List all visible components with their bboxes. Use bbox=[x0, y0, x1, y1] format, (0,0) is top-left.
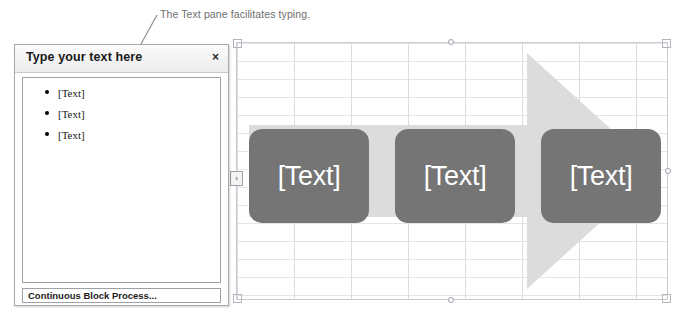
smartart-canvas[interactable]: [Text] [Text] [Text] › bbox=[236, 42, 668, 300]
screenshot-root: The Text pane facilitates typing. [Text]… bbox=[0, 0, 673, 325]
process-block-1-label: [Text] bbox=[278, 161, 341, 192]
text-pane-status-bar: Continuous Block Process... bbox=[22, 288, 221, 303]
selection-handle-top-left[interactable] bbox=[233, 39, 242, 48]
process-block-2-label: [Text] bbox=[424, 161, 487, 192]
selection-handle-bottom-left[interactable] bbox=[233, 294, 242, 303]
list-item-label: [Text] bbox=[58, 108, 85, 120]
bullet-icon bbox=[45, 132, 49, 136]
text-pane-bullet-list[interactable]: [Text] [Text] [Text] bbox=[22, 77, 221, 283]
selection-handle-bottom-center[interactable] bbox=[448, 297, 454, 303]
selection-handle-top-center[interactable] bbox=[448, 39, 454, 45]
bullet-icon bbox=[45, 111, 49, 115]
bullet-icon bbox=[45, 90, 49, 94]
close-icon[interactable]: × bbox=[212, 50, 219, 65]
text-pane-header: Type your text here × bbox=[15, 45, 228, 73]
list-item-label: [Text] bbox=[58, 87, 85, 99]
text-pane-title: Type your text here bbox=[26, 50, 142, 64]
process-block-1[interactable]: [Text] bbox=[249, 129, 369, 223]
process-block-3-label: [Text] bbox=[570, 161, 633, 192]
text-pane-toggle-icon[interactable]: › bbox=[230, 171, 243, 186]
process-block-3[interactable]: [Text] bbox=[541, 129, 661, 223]
list-item-label: [Text] bbox=[58, 129, 85, 141]
selection-handle-top-right[interactable] bbox=[662, 39, 671, 48]
selection-handle-right-center[interactable] bbox=[665, 168, 671, 174]
list-item[interactable]: [Text] bbox=[23, 87, 220, 108]
annotation-caption: The Text pane facilitates typing. bbox=[160, 8, 310, 20]
process-block-2[interactable]: [Text] bbox=[395, 129, 515, 223]
list-item[interactable]: [Text] bbox=[23, 108, 220, 129]
selection-handle-bottom-right[interactable] bbox=[662, 294, 671, 303]
text-pane[interactable]: Type your text here × [Text] [Text] [Tex… bbox=[14, 44, 229, 306]
list-item[interactable]: [Text] bbox=[23, 129, 220, 150]
